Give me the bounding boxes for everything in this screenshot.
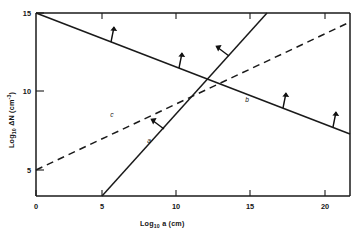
curve-a: a bbox=[102, 13, 267, 196]
x-tick-label-0: 0 bbox=[34, 202, 38, 211]
x-tick-label-10: 10 bbox=[172, 202, 180, 211]
curve-label-c: c bbox=[110, 111, 114, 118]
curve-b-arrow-3 bbox=[282, 92, 289, 108]
y-axis-title: Log10 ΔN (cm-3) bbox=[6, 91, 17, 148]
curve-a-arrow-2 bbox=[215, 45, 229, 56]
plot-frame bbox=[36, 13, 350, 196]
curve-b-arrow-4 bbox=[332, 111, 339, 127]
y-tick-label-5: 5 bbox=[27, 166, 31, 175]
x-tick-label-20: 20 bbox=[321, 202, 329, 211]
curve-a-arrow-1 bbox=[150, 118, 164, 129]
curve-label-a: a bbox=[147, 137, 151, 144]
curve-b-arrow-1 bbox=[110, 26, 117, 42]
y-axis-title-tail: ) bbox=[7, 91, 16, 94]
svg-text:Log10 ΔN (cm-3): Log10 ΔN (cm-3) bbox=[6, 91, 17, 148]
x-axis-title: Log10 a (cm) bbox=[140, 219, 185, 229]
y-axis-title-main: Log bbox=[7, 134, 16, 148]
curve-b: b bbox=[36, 13, 350, 134]
y-axis-ticks bbox=[36, 13, 44, 170]
x-tick-label-15: 15 bbox=[246, 202, 254, 211]
curve-c: c bbox=[36, 22, 350, 170]
x-axis-ticks bbox=[36, 13, 325, 196]
x-axis-title-tail: a (cm) bbox=[160, 219, 185, 228]
curve-b-arrow-2 bbox=[178, 52, 185, 68]
y-tick-label-15: 15 bbox=[23, 9, 31, 18]
scatter-line-figure: 0 5 10 15 20 5 10 15 Log10 a (cm) Log10 … bbox=[0, 0, 361, 235]
y-axis-title-mid: ΔN (cm bbox=[7, 100, 16, 129]
y-tick-label-10: 10 bbox=[23, 87, 31, 96]
curve-label-b: b bbox=[245, 96, 249, 103]
x-axis-title-main: Log bbox=[140, 219, 154, 228]
svg-text:Log10 a (cm): Log10 a (cm) bbox=[140, 219, 185, 229]
x-tick-label-5: 5 bbox=[100, 202, 104, 211]
